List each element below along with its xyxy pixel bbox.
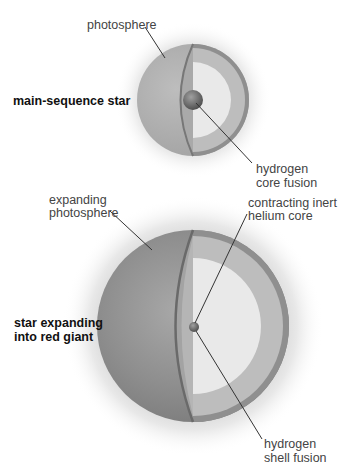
star-evolution-diagram xyxy=(0,0,338,472)
label-expanding-line2: photosphere xyxy=(49,206,119,220)
label-expanding-line1: expanding xyxy=(49,193,107,207)
label-helium-line2: helium core xyxy=(248,209,313,223)
label-core-line1: hydrogen xyxy=(256,162,308,176)
label-shell-line2: shell fusion xyxy=(264,451,327,465)
stage1-title: main-sequence star xyxy=(13,94,130,108)
main-sequence-star-illustration xyxy=(115,22,271,178)
stage2-title-line1: star expanding xyxy=(14,316,103,330)
label-photosphere: photosphere xyxy=(87,18,157,32)
stage2-title-line2: into red giant xyxy=(14,330,93,344)
label-shell-line1: hydrogen xyxy=(264,437,316,451)
label-helium-line1: contracting inert xyxy=(248,196,337,210)
label-core-line2: core fusion xyxy=(256,176,317,190)
